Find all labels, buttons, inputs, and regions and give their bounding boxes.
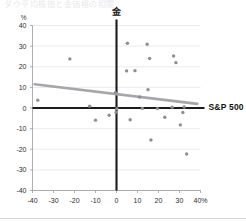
data-point [146, 88, 149, 91]
data-point [107, 114, 110, 117]
y-tick-label: 10 [11, 84, 27, 91]
x-tick-label: 30 [171, 197, 189, 204]
data-point [125, 69, 128, 72]
data-point [145, 43, 148, 46]
sp500-axis-label: S&P 500 [209, 103, 244, 112]
data-point [88, 104, 91, 107]
data-point [141, 107, 144, 110]
x-tick-label: -30 [45, 197, 63, 204]
x-tick-label: 10 [129, 197, 147, 204]
data-point [36, 98, 39, 101]
x-tick-label: -40 [24, 197, 42, 204]
y-axis-unit-label: % [11, 15, 27, 22]
bottom-divider [0, 218, 246, 219]
data-point [138, 95, 141, 98]
x-tick-label: 20 [150, 197, 168, 204]
y-tick-label: 20 [11, 63, 27, 70]
y-tick-label: -20 [11, 146, 27, 153]
y-tick-label: 30 [11, 43, 27, 50]
data-point [115, 107, 118, 110]
data-point [114, 91, 117, 94]
data-point [126, 42, 129, 45]
x-tick-label: 40% [192, 197, 210, 204]
chart-page: ダウ平均株価と金価格の相関 403020100-10-20-30-40%-40-… [0, 0, 246, 221]
data-point [68, 57, 71, 60]
data-point [172, 54, 175, 57]
x-tick-label: 0 [108, 197, 126, 204]
data-point [148, 57, 151, 60]
data-point [185, 152, 188, 155]
y-tick-label: 0 [11, 105, 27, 112]
data-point [133, 69, 136, 72]
data-point [163, 116, 166, 119]
data-point [182, 105, 185, 108]
x-tick-label: -20 [66, 197, 84, 204]
data-point [156, 107, 159, 110]
data-point [128, 118, 131, 121]
y-tick-label: -30 [11, 166, 27, 173]
y-tick-label: -40 [11, 187, 27, 194]
data-point [170, 105, 173, 108]
data-point [179, 123, 182, 126]
y-tick-label: -10 [11, 125, 27, 132]
gold-axis-label: 金 [112, 8, 121, 17]
data-point [149, 138, 152, 141]
data-point [181, 111, 184, 114]
data-point [114, 110, 117, 113]
data-point [174, 61, 177, 64]
y-tick-label: 40 [11, 22, 27, 29]
data-point [94, 118, 97, 121]
x-tick-label: -10 [87, 197, 105, 204]
